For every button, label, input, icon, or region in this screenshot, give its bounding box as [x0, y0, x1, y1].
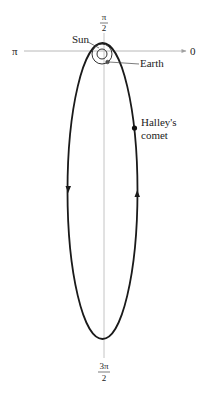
label-earth: Earth	[140, 57, 164, 69]
orbit-arrow-up-icon	[135, 190, 141, 197]
label-sun: Sun	[72, 33, 90, 45]
label-pi: π	[12, 45, 18, 57]
label-comet-line2: comet	[141, 129, 168, 141]
svg-text:2: 2	[102, 23, 107, 33]
label-comet-line1: Halley's	[141, 116, 177, 128]
orbit-arrow-down-icon	[66, 186, 72, 193]
label-pi-over-2: π 2	[100, 12, 108, 33]
comet-orbit	[68, 43, 138, 339]
earth-leader-line	[109, 62, 139, 64]
svg-text:3π: 3π	[99, 361, 109, 371]
earth-icon	[106, 60, 110, 64]
label-zero: 0	[190, 45, 196, 57]
label-3pi-over-2: 3π 2	[98, 361, 110, 383]
svg-text:2: 2	[102, 373, 107, 383]
comet-icon	[132, 125, 137, 130]
svg-text:π: π	[102, 12, 107, 22]
halley-orbit-diagram: π 0 π 2 3π 2 Sun Earth Halley's comet	[0, 0, 207, 394]
